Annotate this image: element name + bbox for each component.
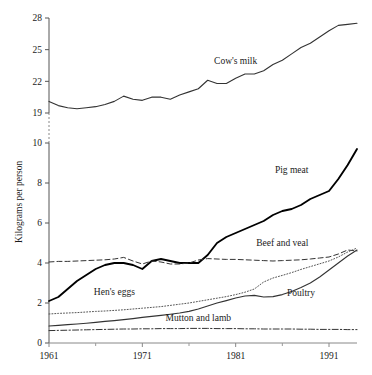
y-tick-label: 0 [37,338,42,348]
series-label-pig-meat: Pig meat [275,165,309,175]
x-tick-label: 1961 [40,351,59,361]
x-tick-label: 1971 [133,351,152,361]
chart-container: 0246810192225281961197119811991 Cow's mi… [0,0,372,375]
line-chart: 0246810192225281961197119811991 Cow's mi… [0,0,372,375]
y-tick-label: 28 [33,13,43,23]
x-tick-label: 1981 [226,351,245,361]
series-label-cow-s-milk: Cow's milk [214,56,257,66]
y-tick-label: 25 [33,45,43,55]
series-label-mutton-and-lamb: Mutton and lamb [166,313,232,323]
x-tick-label: 1991 [320,351,339,361]
y-tick-label: 22 [33,77,43,87]
series-label-poultry: Poultry [287,288,315,298]
series-label-beef-and-veal: Beef and veal [256,238,309,248]
y-axis-title-group: Kilograms per person [14,160,24,243]
y-tick-label: 4 [37,258,42,268]
y-tick-label: 8 [37,178,42,188]
y-tick-label: 2 [37,298,42,308]
y-tick-label: 10 [33,138,43,148]
series-label-hen-s-eggs: Hen's eggs [94,287,135,297]
y-axis-title: Kilograms per person [14,160,24,243]
y-tick-label: 6 [37,218,42,228]
y-tick-label: 19 [33,108,43,118]
